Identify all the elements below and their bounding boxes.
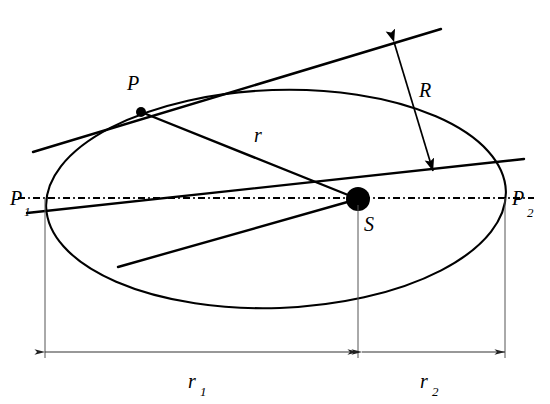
label-point-p2-subscript: 2 — [527, 205, 534, 220]
label-point-p1-base: P — [9, 187, 22, 209]
label-point-p: P — [126, 72, 139, 94]
label-point-p1-subscript: 1 — [24, 204, 31, 219]
tangent-line-at-p — [33, 29, 441, 152]
label-curvature-radius-R: R — [418, 79, 431, 101]
ellipse-geometry-figure: P S r R P 1 P 2 r 1 r 2 — [0, 0, 550, 404]
label-dimension-r1-base: r — [188, 370, 196, 392]
label-dimension-r2-base: r — [420, 370, 428, 392]
label-dimension-r1-subscript: 1 — [200, 384, 207, 399]
label-point-p2-base: P — [511, 187, 524, 209]
chord-from-focus-segment — [118, 199, 358, 267]
point-p-dot — [136, 107, 146, 117]
label-dimension-r2: r 2 — [420, 370, 439, 399]
label-dimension-r2-subscript: 2 — [432, 384, 439, 399]
diagram-canvas: P S r R P 1 P 2 r 1 r 2 — [0, 0, 550, 404]
radius-vector-segment — [141, 112, 358, 199]
label-radius-vector-r: r — [254, 124, 262, 146]
label-point-p2: P 2 — [511, 187, 534, 220]
label-focus-s: S — [364, 213, 374, 235]
label-point-p1: P 1 — [9, 187, 31, 219]
curvature-radius-double-arrow — [394, 42, 433, 171]
label-dimension-r1: r 1 — [188, 370, 206, 399]
